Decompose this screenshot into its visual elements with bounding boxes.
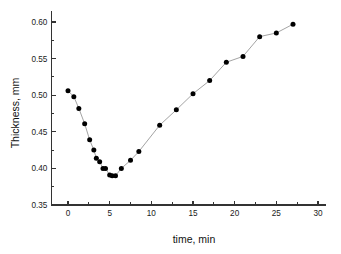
data-point bbox=[91, 148, 96, 153]
data-point bbox=[128, 158, 133, 163]
data-point bbox=[87, 137, 92, 142]
data-point bbox=[97, 159, 102, 164]
data-point bbox=[136, 149, 141, 154]
data-point bbox=[76, 106, 81, 111]
data-point bbox=[66, 88, 71, 93]
data-point bbox=[207, 78, 212, 83]
thickness-vs-time-plot: 0.350.400.450.500.550.60 051015202530 ti… bbox=[0, 0, 341, 254]
data-series-line bbox=[68, 24, 293, 176]
x-tick-label-10: 10 bbox=[147, 209, 157, 218]
x-tick-label-5: 5 bbox=[107, 209, 112, 218]
data-point bbox=[257, 34, 262, 39]
y-tick-label-0.35: 0.35 bbox=[31, 201, 47, 210]
x-tick-label-30: 30 bbox=[313, 209, 323, 218]
y-tick-label-0.60: 0.60 bbox=[31, 18, 47, 27]
data-point bbox=[224, 60, 229, 65]
data-point bbox=[174, 107, 179, 112]
data-point bbox=[191, 91, 196, 96]
chart-figure: 0.350.400.450.500.550.60 051015202530 ti… bbox=[0, 0, 341, 254]
y-tick-label-0.55: 0.55 bbox=[31, 55, 47, 64]
x-tick-label-15: 15 bbox=[188, 209, 198, 218]
x-tick-label-25: 25 bbox=[272, 209, 282, 218]
data-point bbox=[274, 30, 279, 35]
x-axis-major-ticks bbox=[68, 201, 318, 206]
data-point bbox=[119, 166, 124, 171]
data-point bbox=[103, 166, 108, 171]
y-tick-label-0.40: 0.40 bbox=[31, 164, 47, 173]
x-axis-tick-labels: 051015202530 bbox=[66, 209, 323, 218]
data-point bbox=[241, 54, 246, 59]
x-tick-label-0: 0 bbox=[66, 209, 71, 218]
y-axis-title: Thickness, mm bbox=[9, 77, 21, 148]
data-point bbox=[82, 121, 87, 126]
x-axis-title: time, min bbox=[173, 233, 216, 245]
data-point bbox=[113, 173, 118, 178]
x-tick-label-20: 20 bbox=[230, 209, 240, 218]
y-tick-label-0.50: 0.50 bbox=[31, 91, 47, 100]
data-point bbox=[71, 94, 76, 99]
data-point bbox=[291, 22, 296, 27]
y-tick-label-0.45: 0.45 bbox=[31, 128, 47, 137]
data-series-markers bbox=[66, 22, 296, 179]
y-axis-tick-labels: 0.350.400.450.500.550.60 bbox=[31, 18, 47, 210]
data-point bbox=[157, 123, 162, 128]
